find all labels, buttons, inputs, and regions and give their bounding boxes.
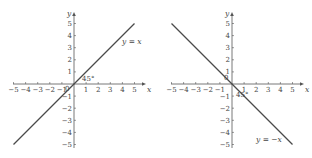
- y-tick-label: −1: [220, 93, 230, 101]
- equation-label: y = −x: [255, 135, 283, 144]
- y-axis-arrow-icon: [230, 12, 234, 16]
- equation-label: y = x: [121, 37, 142, 46]
- y-axis-label: y: [66, 9, 72, 18]
- x-axis-arrow-icon: [300, 82, 304, 86]
- plot-y-equals-negative-x: −5−4−3−2−112345−5−4−3−2−1123450xyy = −x4…: [166, 9, 310, 149]
- x-tick-label: 3: [266, 86, 270, 94]
- x-axis-arrow-icon: [142, 82, 146, 86]
- x-tick-label: 4: [120, 86, 125, 94]
- x-tick-label: 3: [108, 86, 112, 94]
- y-tick-label: 5: [226, 20, 230, 28]
- x-tick-label: −2: [203, 86, 213, 94]
- y-tick-label: −3: [220, 117, 230, 125]
- x-tick-label: 2: [96, 86, 100, 94]
- y-tick-label: 4: [68, 32, 73, 40]
- y-tick-label: 2: [68, 56, 72, 64]
- y-tick-label: −5: [62, 141, 72, 149]
- y-tick-label: −5: [220, 141, 230, 149]
- y-tick-label: 3: [226, 44, 230, 52]
- x-axis-label: x: [147, 85, 152, 94]
- y-tick-label: 1: [68, 68, 72, 76]
- y-tick-label: 2: [226, 56, 230, 64]
- y-tick-label: 5: [68, 20, 72, 28]
- x-tick-label: −2: [45, 86, 55, 94]
- angle-label: 45°: [236, 91, 248, 99]
- x-tick-label: 5: [290, 86, 294, 94]
- x-tick-label: 2: [254, 86, 258, 94]
- y-axis-label: y: [224, 9, 230, 18]
- plot-y-equals-x: −5−4−3−2−112345−5−4−3−2−1123450xyy = x45…: [8, 9, 152, 149]
- x-tick-label: 1: [84, 86, 88, 94]
- y-tick-label: 3: [68, 44, 72, 52]
- x-tick-label: 5: [132, 86, 136, 94]
- x-tick-label: −3: [33, 86, 43, 94]
- y-tick-label: −2: [220, 105, 230, 113]
- y-tick-label: 4: [226, 32, 231, 40]
- angle-label: 45°: [82, 75, 94, 83]
- x-tick-label: −4: [20, 86, 31, 94]
- chart-canvas: −5−4−3−2−112345−5−4−3−2−1123450xyy = x45…: [0, 0, 312, 158]
- y-tick-label: −2: [62, 105, 72, 113]
- x-tick-label: −3: [191, 86, 201, 94]
- x-axis-label: x: [305, 85, 310, 94]
- x-tick-label: −5: [166, 86, 176, 94]
- y-tick-label: −4: [62, 129, 73, 137]
- x-tick-label: 4: [278, 86, 283, 94]
- x-tick-label: −5: [8, 86, 18, 94]
- y-axis-arrow-icon: [72, 12, 76, 16]
- x-tick-label: −4: [178, 86, 189, 94]
- y-tick-label: −1: [62, 93, 72, 101]
- y-tick-label: −3: [62, 117, 72, 125]
- y-tick-label: −4: [220, 129, 231, 137]
